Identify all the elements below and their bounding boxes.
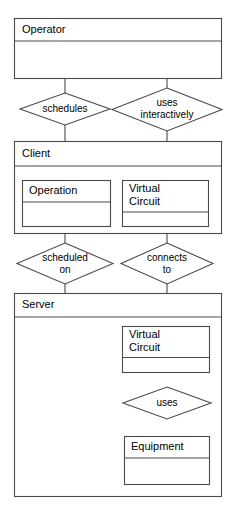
entity-operator[interactable]: Operator: [15, 19, 222, 79]
relationship-schedules[interactable]: schedules: [20, 93, 110, 125]
entity-client-virtual-circuit-label-line1: Virtual: [129, 182, 160, 194]
entity-server-virtual-circuit-label-line1: Virtual: [129, 328, 160, 340]
relationship-uses-interactively-label-line2: interactively: [141, 109, 194, 120]
entity-server-virtual-circuit[interactable]: Virtual Circuit: [123, 327, 210, 373]
entity-operator-label: Operator: [22, 23, 66, 35]
relationship-uses-label: uses: [156, 397, 177, 408]
relationship-connects-to[interactable]: connects to: [121, 243, 213, 284]
entity-client-virtual-circuit[interactable]: Virtual Circuit: [123, 181, 209, 227]
relationship-connects-to-label-line2: to: [163, 264, 172, 275]
relationship-connects-to-label-line1: connects: [147, 252, 187, 263]
relationship-schedules-label: schedules: [42, 103, 87, 114]
entity-client-virtual-circuit-label-line2: Circuit: [129, 195, 160, 207]
entity-server-label: Server: [22, 298, 55, 310]
relationship-scheduled-on[interactable]: scheduled on: [17, 243, 113, 284]
diagram-canvas: Operator schedules uses interactively Cl…: [0, 0, 238, 519]
entity-relationship-diagram: Operator schedules uses interactively Cl…: [0, 0, 238, 519]
relationship-uses-interactively[interactable]: uses interactively: [112, 88, 222, 131]
entity-equipment[interactable]: Equipment: [125, 437, 210, 485]
entity-server-virtual-circuit-label-line2: Circuit: [129, 341, 160, 353]
entity-client-label: Client: [22, 147, 50, 159]
relationship-uses-interactively-label-line1: uses: [156, 97, 177, 108]
relationship-scheduled-on-label-line2: on: [59, 264, 70, 275]
relationship-scheduled-on-label-line1: scheduled: [42, 252, 88, 263]
entity-operation[interactable]: Operation: [23, 181, 111, 227]
entity-equipment-label: Equipment: [131, 440, 184, 452]
entity-operation-label: Operation: [29, 184, 77, 196]
